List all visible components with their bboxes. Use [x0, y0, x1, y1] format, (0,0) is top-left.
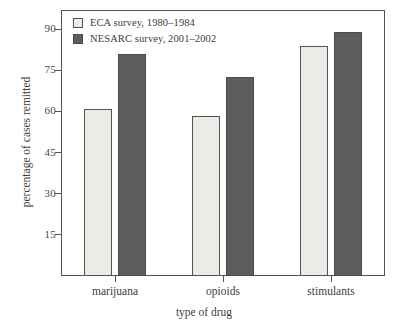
legend-swatch-eca-icon [73, 18, 83, 28]
x-tick-mark [331, 276, 332, 282]
x-tick-mark [223, 276, 224, 282]
chart-legend: ECA survey, 1980–1984 NESARC survey, 200… [73, 15, 216, 47]
legend-label-nesarc: NESARC survey, 2001–2002 [90, 33, 216, 44]
bar-opioids-nesarc [226, 77, 254, 276]
y-tick-label: 90 [16, 23, 56, 34]
bar-marijuana-eca [84, 109, 112, 276]
bar-marijuana-nesarc [118, 54, 146, 276]
y-axis-title: percentage of cases remitted [20, 42, 32, 242]
legend-label-eca: ECA survey, 1980–1984 [90, 17, 195, 28]
x-tick-label-stimulants: stimulants [307, 285, 354, 298]
bar-stimulants-nesarc [334, 32, 362, 276]
bar-stimulants-eca [300, 46, 328, 276]
x-tick-label-opioids: opioids [206, 285, 240, 298]
legend-swatch-nesarc-icon [73, 34, 83, 44]
bar-opioids-eca [192, 116, 220, 276]
bar-chart-figure: 153045607590 marijuanaopioidsstimulants … [0, 0, 408, 331]
x-tick-mark [115, 276, 116, 282]
legend-item-eca: ECA survey, 1980–1984 [73, 15, 216, 30]
legend-item-nesarc: NESARC survey, 2001–2002 [73, 31, 216, 46]
x-axis-title: type of drug [0, 306, 408, 318]
x-tick-label-marijuana: marijuana [92, 285, 138, 298]
